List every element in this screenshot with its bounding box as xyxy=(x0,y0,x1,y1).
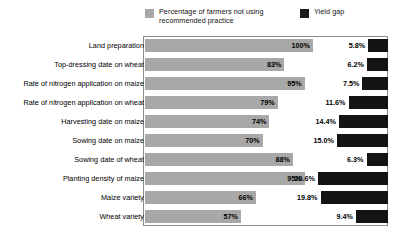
category-label: Sowing date of wheat xyxy=(74,150,144,169)
bar-yield-gap xyxy=(367,58,388,71)
legend-label-percentage: Percentage of farmers not using recommen… xyxy=(159,8,264,25)
bar-track-percentage: 100% xyxy=(145,39,313,52)
bar-track-yield-gap: 20.6% xyxy=(313,172,388,185)
bar-track-percentage: 79% xyxy=(145,96,313,109)
chart-row: Rate of nitrogen application on maize95%… xyxy=(0,74,398,93)
category-label: Sowing date on maize xyxy=(72,131,144,150)
bar-yield-gap xyxy=(337,134,388,147)
bar-track-percentage: 74% xyxy=(145,115,313,128)
chart-rows: Land preparation100%5.8%Top-dressing dat… xyxy=(0,36,398,226)
bar-track-yield-gap: 7.5% xyxy=(313,77,388,90)
bar-track-yield-gap: 11.6% xyxy=(313,96,388,109)
bar-value-yield-gap: 6.3% xyxy=(327,153,367,166)
bar-yield-gap xyxy=(362,77,388,90)
bar-value-yield-gap: 14.4% xyxy=(299,115,339,128)
chart-legend: Percentage of farmers not using recommen… xyxy=(0,5,398,33)
bar-track-percentage: 70% xyxy=(145,134,313,147)
category-label: Wheat variety xyxy=(99,207,144,226)
category-label: Rate of nitrogen application on wheat xyxy=(24,93,144,112)
bar-track-yield-gap: 5.8% xyxy=(313,39,388,52)
bar-track-percentage: 83% xyxy=(145,58,313,71)
chart-row: Harvesting date on maize74%14.4% xyxy=(0,112,398,131)
bar-value-percentage: 57% xyxy=(145,210,241,223)
bar-value-yield-gap: 11.6% xyxy=(309,96,349,109)
bar-yield-gap xyxy=(368,39,388,52)
category-label: Rate of nitrogen application on maize xyxy=(24,74,144,93)
chart-row: Sowing date on maize70%15.0% xyxy=(0,131,398,150)
bar-track-yield-gap: 14.4% xyxy=(313,115,388,128)
bar-value-percentage: 66% xyxy=(145,191,256,204)
category-label: Maize variety xyxy=(101,188,144,207)
legend-label-yield-gap: Yield gap xyxy=(314,8,344,17)
legend-item-percentage: Percentage of farmers not using recommen… xyxy=(145,8,295,25)
chart-row: Land preparation100%5.8% xyxy=(0,36,398,55)
bar-value-percentage: 70% xyxy=(145,134,263,147)
bar-yield-gap xyxy=(321,191,389,204)
bar-yield-gap xyxy=(349,96,389,109)
bar-yield-gap xyxy=(339,115,388,128)
chart-row: Sowing date of wheat88%6.3% xyxy=(0,150,398,169)
bar-track-yield-gap: 6.2% xyxy=(313,58,388,71)
bar-value-yield-gap: 6.2% xyxy=(327,58,367,71)
bar-value-yield-gap: 9.4% xyxy=(316,210,356,223)
legend-swatch-percentage-icon xyxy=(145,9,154,18)
bar-yield-gap xyxy=(367,153,389,166)
bar-value-yield-gap: 15.0% xyxy=(297,134,337,147)
bar-value-yield-gap: 20.6% xyxy=(278,172,318,185)
bar-track-percentage: 57% xyxy=(145,210,313,223)
bar-yield-gap xyxy=(318,172,388,185)
bar-value-yield-gap: 19.8% xyxy=(281,191,321,204)
chart-row: Wheat variety57%9.4% xyxy=(0,207,398,226)
bar-value-yield-gap: 5.8% xyxy=(328,39,368,52)
bar-track-percentage: 88% xyxy=(145,153,313,166)
category-label: Planting density of maize xyxy=(63,169,144,188)
legend-item-yield-gap: Yield gap xyxy=(300,8,398,18)
chart-row: Maize variety66%19.8% xyxy=(0,188,398,207)
bar-yield-gap xyxy=(356,210,388,223)
bar-value-percentage: 83% xyxy=(145,58,284,71)
grouped-bar-chart: Percentage of farmers not using recommen… xyxy=(0,0,398,229)
bar-value-percentage: 79% xyxy=(145,96,278,109)
bar-track-yield-gap: 19.8% xyxy=(313,191,388,204)
chart-row: Rate of nitrogen application on wheat79%… xyxy=(0,93,398,112)
bar-track-yield-gap: 6.3% xyxy=(313,153,388,166)
legend-swatch-yield-gap-icon xyxy=(300,9,309,18)
category-label: Harvesting date on maize xyxy=(61,112,144,131)
bar-value-percentage: 88% xyxy=(145,153,293,166)
bar-track-percentage: 95% xyxy=(145,77,313,90)
bar-value-percentage: 74% xyxy=(145,115,269,128)
category-label: Top-dressing date on wheat xyxy=(54,55,144,74)
chart-row: Top-dressing date on wheat83%6.2% xyxy=(0,55,398,74)
chart-row: Planting density of maize95%20.6% xyxy=(0,169,398,188)
bar-value-yield-gap: 7.5% xyxy=(322,77,362,90)
bar-track-yield-gap: 15.0% xyxy=(313,134,388,147)
bar-value-percentage: 100% xyxy=(145,39,313,52)
category-label: Land preparation xyxy=(89,36,144,55)
bar-track-yield-gap: 9.4% xyxy=(313,210,388,223)
bar-value-percentage: 95% xyxy=(145,77,305,90)
